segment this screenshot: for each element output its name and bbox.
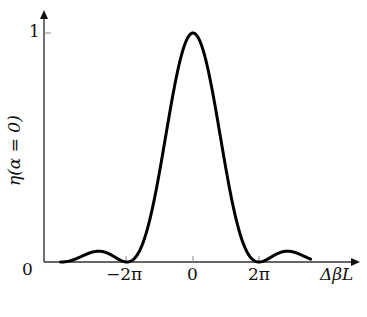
x-tick-label-0: 0 bbox=[187, 264, 198, 284]
origin-label: 0 bbox=[22, 259, 33, 279]
y-axis-label: η(α = 0) bbox=[4, 115, 24, 186]
y-tick-label-1: 1 bbox=[29, 21, 40, 41]
x-tick-label-2pi: 2π bbox=[248, 264, 270, 284]
x-axis-label: ΔβL bbox=[320, 264, 353, 284]
y-axis-arrow-icon bbox=[40, 10, 48, 19]
chart-canvas bbox=[0, 0, 367, 317]
x-tick-label-neg2pi: −2π bbox=[106, 264, 142, 284]
efficiency-curve bbox=[61, 33, 311, 262]
